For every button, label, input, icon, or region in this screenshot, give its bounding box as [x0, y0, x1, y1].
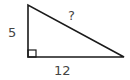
right-triangle-diagram: 5 ? 12 [0, 0, 130, 80]
horizontal-leg-label: 12 [54, 63, 71, 78]
hypotenuse-label: ? [68, 8, 75, 23]
triangle-shape [28, 5, 124, 57]
vertical-leg-label: 5 [8, 25, 16, 40]
right-angle-marker [28, 50, 36, 57]
